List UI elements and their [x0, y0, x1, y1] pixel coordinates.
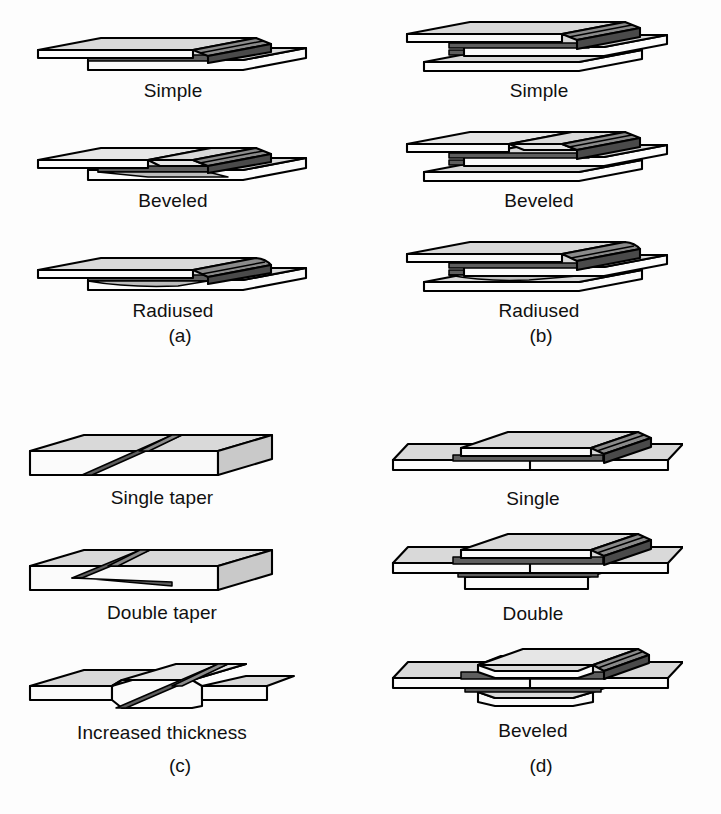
strap-beveled-drawing	[383, 640, 683, 722]
joint-c3-label: Increased thickness	[22, 722, 302, 744]
joint-b1-label: Simple	[389, 80, 689, 102]
joint-d2: Double	[383, 525, 683, 605]
joint-c2: Double taper	[22, 540, 302, 602]
joint-b3: Radiused	[389, 230, 689, 302]
joint-c3: Increased thickness	[22, 650, 302, 722]
panel-d: Single Double	[361, 400, 721, 814]
joint-d2-label: Double	[383, 603, 683, 625]
double-lap-beveled-drawing	[389, 120, 689, 192]
joint-d1-label: Single	[383, 488, 683, 510]
joint-d1: Single	[383, 422, 683, 488]
panel-b: Simple Beveled	[361, 0, 721, 370]
panel-b-letter: (b)	[361, 325, 721, 347]
joint-b2-label: Beveled	[389, 190, 689, 212]
scarf-single-taper-drawing	[22, 425, 302, 487]
joint-a3-label: Radiused	[28, 300, 318, 322]
joint-a2: Beveled	[28, 128, 318, 190]
joint-a1-label: Simple	[28, 80, 318, 102]
joint-d3: Beveled	[383, 640, 683, 722]
joint-d3-label: Beveled	[383, 720, 683, 742]
joint-b3-label: Radiused	[389, 300, 689, 322]
joint-configuration-figure: Simple Beveled	[0, 0, 721, 814]
single-lap-simple-drawing	[28, 18, 318, 80]
joint-c2-label: Double taper	[22, 602, 302, 624]
scarf-double-taper-drawing	[22, 540, 302, 602]
joint-b2: Beveled	[389, 120, 689, 192]
double-lap-simple-drawing	[389, 10, 689, 82]
double-lap-radiused-drawing	[389, 230, 689, 302]
joint-a2-label: Beveled	[28, 190, 318, 212]
joint-a1: Simple	[28, 18, 318, 80]
panel-a: Simple Beveled	[0, 0, 360, 370]
strap-single-drawing	[383, 422, 683, 488]
panel-c: Single taper Double taper	[0, 400, 360, 814]
joint-b1: Simple	[389, 10, 689, 82]
strap-double-drawing	[383, 525, 683, 605]
panel-a-letter: (a)	[0, 325, 360, 347]
panel-c-letter: (c)	[0, 755, 360, 777]
joint-c1: Single taper	[22, 425, 302, 487]
scarf-increased-thickness-drawing	[22, 650, 302, 722]
joint-a3: Radiused	[28, 238, 318, 300]
single-lap-radiused-drawing	[28, 238, 318, 300]
panel-d-letter: (d)	[361, 755, 721, 777]
single-lap-beveled-drawing	[28, 128, 318, 190]
joint-c1-label: Single taper	[22, 487, 302, 509]
